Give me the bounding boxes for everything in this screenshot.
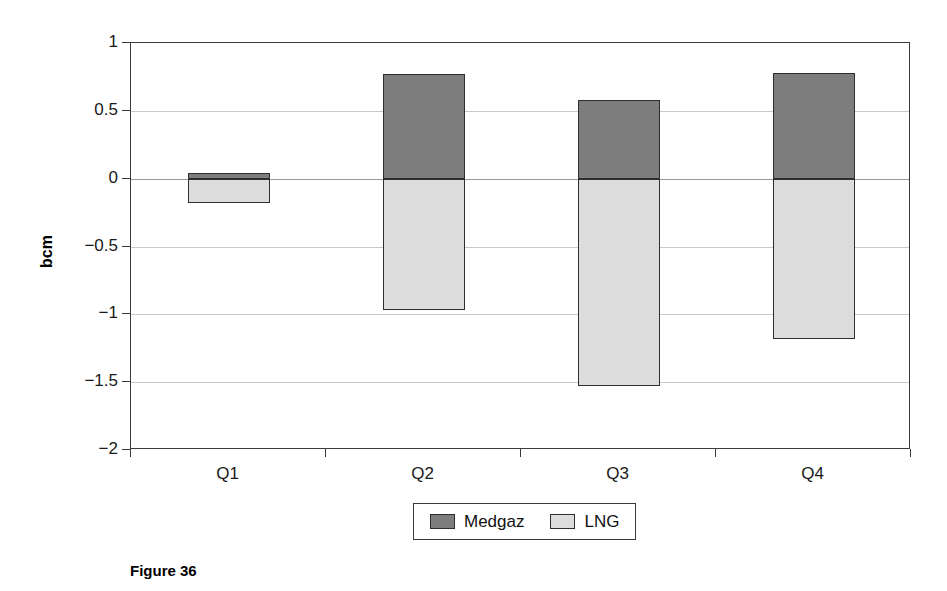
bar-segment (578, 179, 660, 387)
y-axis-tick (122, 246, 130, 247)
plot-area (130, 42, 910, 449)
legend-swatch (550, 514, 575, 529)
legend-item: LNG (550, 513, 619, 530)
x-axis-tick-label: Q4 (753, 465, 873, 482)
bar-segment (773, 73, 855, 179)
y-axis-tick (122, 178, 130, 179)
y-axis-title: bcm (38, 235, 56, 268)
y-axis-tick (122, 449, 130, 450)
legend-label: LNG (584, 513, 619, 530)
bar-group (773, 43, 855, 448)
y-axis-tick-label: −1 (60, 304, 118, 321)
bar-group (578, 43, 660, 448)
y-axis-tick (122, 110, 130, 111)
bar-segment (383, 74, 465, 178)
y-axis-tick-label: −1.5 (60, 372, 118, 389)
bar-group (383, 43, 465, 448)
y-axis-tick-label: −2 (60, 440, 118, 457)
figure-caption: Figure 36 (130, 562, 197, 579)
x-axis-tick (520, 449, 521, 457)
bar-segment (578, 100, 660, 179)
chart-legend: MedgazLNG (413, 503, 636, 540)
x-axis-tick-label: Q1 (168, 465, 288, 482)
y-axis-tick-label: 1 (60, 33, 118, 50)
x-axis-tick (325, 449, 326, 457)
y-axis-tick (122, 42, 130, 43)
y-axis-tick (122, 381, 130, 382)
legend-swatch (430, 514, 455, 529)
y-axis-tick-label: 0 (60, 169, 118, 186)
y-axis-tick (122, 313, 130, 314)
x-axis-tick-label: Q2 (363, 465, 483, 482)
bar-segment (773, 179, 855, 339)
x-axis-tick (715, 449, 716, 457)
bar-segment (188, 179, 270, 203)
figure-container: bcm MedgazLNG Figure 36 10.50−0.5−1−1.5−… (0, 0, 947, 591)
x-axis-tick (130, 449, 131, 457)
x-axis-tick-label: Q3 (558, 465, 678, 482)
y-axis-tick-label: −0.5 (60, 237, 118, 254)
x-axis-tick (910, 449, 911, 457)
legend-label: Medgaz (464, 513, 524, 530)
legend-item: Medgaz (430, 513, 524, 530)
y-axis-tick-label: 0.5 (60, 101, 118, 118)
bar-segment (383, 179, 465, 311)
bar-group (188, 43, 270, 448)
